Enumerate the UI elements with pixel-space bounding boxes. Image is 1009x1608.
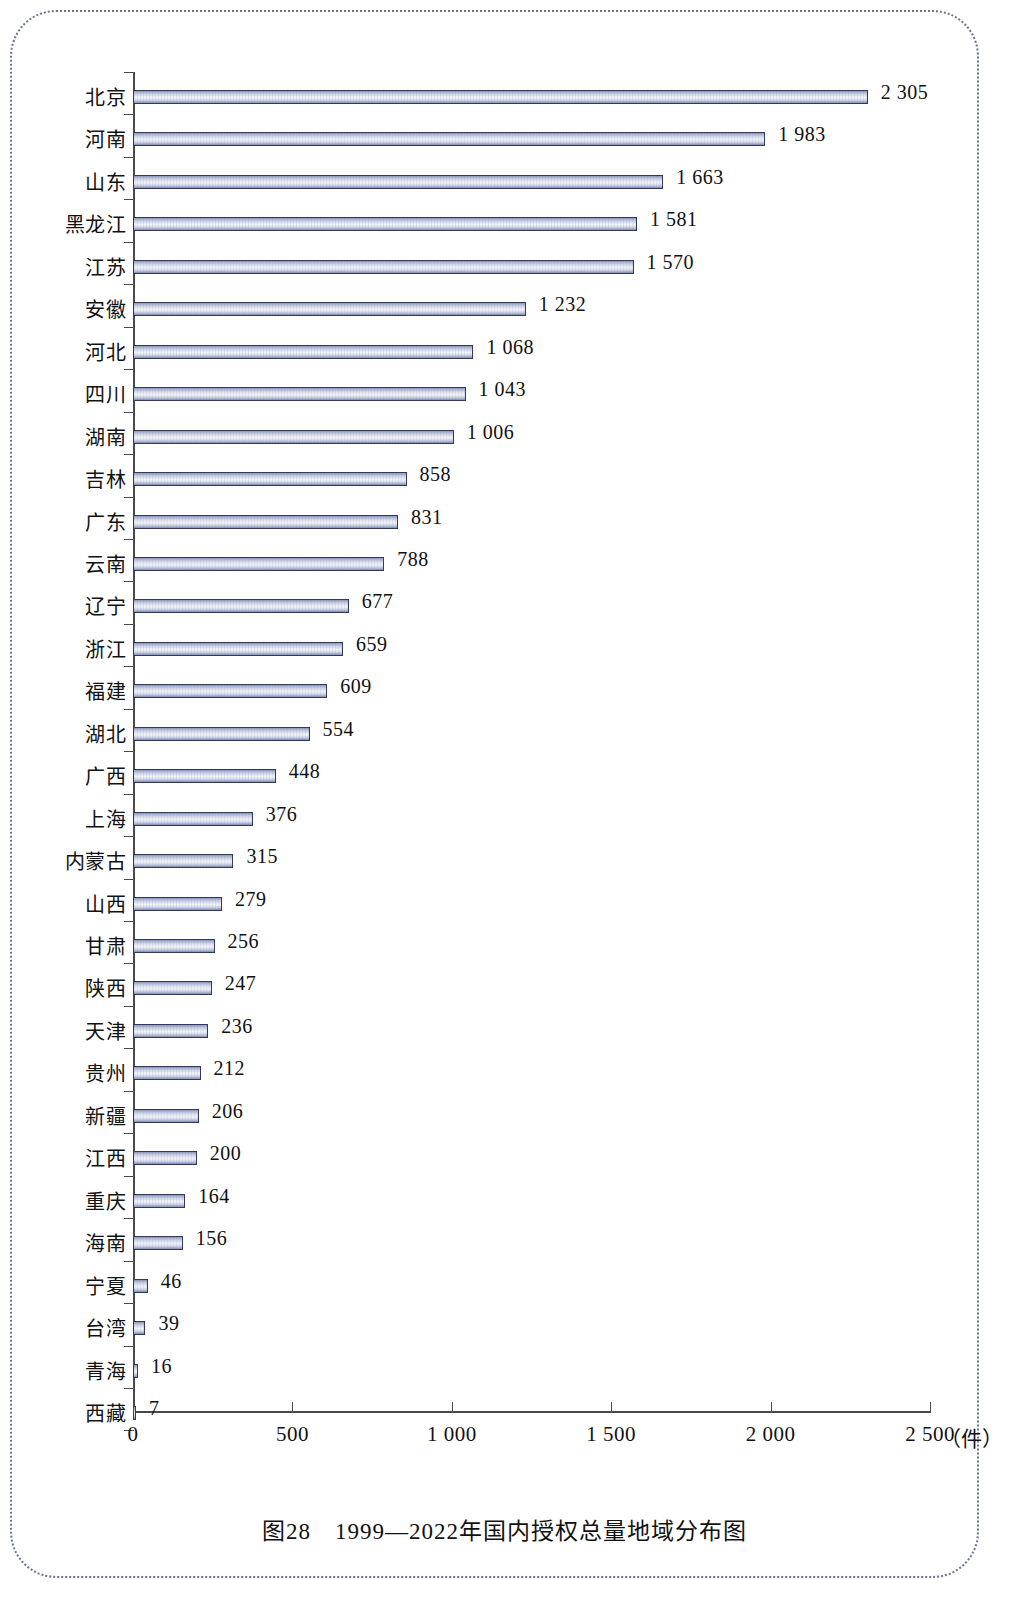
y-axis-tick <box>124 666 134 667</box>
bar <box>133 1151 197 1165</box>
bar-value-label: 659 <box>356 633 388 656</box>
bar <box>133 217 637 231</box>
bar <box>133 981 212 995</box>
bar <box>133 472 407 486</box>
category-label: 甘肃 <box>0 931 126 960</box>
y-axis-tick <box>124 157 134 158</box>
bar-value-label: 1 663 <box>676 166 724 189</box>
bar-row: 海南156 <box>0 1222 1009 1264</box>
y-axis-tick <box>124 1388 134 1389</box>
bar-value-label: 1 581 <box>650 208 698 231</box>
x-axis-tick <box>452 1402 453 1412</box>
bar-row: 山西279 <box>0 883 1009 925</box>
bar <box>133 1066 201 1080</box>
category-label: 广西 <box>0 761 126 790</box>
y-axis-tick <box>124 836 134 837</box>
x-axis-tick-label: 1 000 <box>427 1422 477 1447</box>
x-axis-tick-label: 0 <box>128 1422 139 1447</box>
category-label: 西藏 <box>0 1398 126 1427</box>
y-axis-tick <box>124 1218 134 1219</box>
category-label: 天津 <box>0 1016 126 1045</box>
category-label: 四川 <box>0 379 126 408</box>
y-axis-tick <box>124 114 134 115</box>
bar-row: 辽宁677 <box>0 585 1009 627</box>
bar-row: 内蒙古315 <box>0 840 1009 882</box>
bar-value-label: 315 <box>246 845 278 868</box>
y-axis-tick <box>124 751 134 752</box>
bar-row: 河北1 068 <box>0 331 1009 373</box>
bar-row: 青海16 <box>0 1350 1009 1392</box>
category-label: 重庆 <box>0 1186 126 1215</box>
x-axis-tick <box>292 1402 293 1412</box>
bar <box>133 515 398 529</box>
bar <box>133 1194 185 1208</box>
category-label: 辽宁 <box>0 591 126 620</box>
bar <box>133 854 233 868</box>
bar-row: 安徽1 232 <box>0 288 1009 330</box>
category-label: 山东 <box>0 167 126 196</box>
category-label: 广东 <box>0 507 126 536</box>
y-axis-tick <box>124 199 134 200</box>
y-axis-tick <box>124 412 134 413</box>
bar-row: 山东1 663 <box>0 161 1009 203</box>
bar-value-label: 16 <box>151 1355 172 1378</box>
category-label: 黑龙江 <box>0 209 126 238</box>
y-axis-tick <box>124 581 134 582</box>
bar-value-label: 2 305 <box>881 81 929 104</box>
x-axis-tick-label: 2 000 <box>746 1422 796 1447</box>
bar <box>133 90 868 104</box>
bar <box>133 1109 199 1123</box>
bar-value-label: 788 <box>397 548 429 571</box>
bar-row: 江苏1 570 <box>0 246 1009 288</box>
y-axis-tick <box>124 454 134 455</box>
category-label: 浙江 <box>0 634 126 663</box>
y-axis-tick <box>124 72 134 73</box>
category-label: 北京 <box>0 82 126 111</box>
bar-value-label: 1 043 <box>479 378 527 401</box>
bar <box>133 302 526 316</box>
bar-value-label: 200 <box>210 1142 242 1165</box>
bar <box>133 769 276 783</box>
category-label: 江苏 <box>0 252 126 281</box>
y-axis-tick <box>124 1346 134 1347</box>
y-axis-tick <box>124 369 134 370</box>
x-axis-tick-label: 500 <box>276 1422 309 1447</box>
bar-value-label: 858 <box>420 463 452 486</box>
y-axis-tick <box>124 921 134 922</box>
category-label: 上海 <box>0 804 126 833</box>
category-label: 福建 <box>0 676 126 705</box>
bar <box>133 1321 145 1335</box>
bar-row: 北京2 305 <box>0 76 1009 118</box>
y-axis-tick <box>124 1091 134 1092</box>
bar <box>133 1279 148 1293</box>
y-axis-tick <box>124 1006 134 1007</box>
bar-row: 台湾39 <box>0 1307 1009 1349</box>
bar-row: 湖南1 006 <box>0 416 1009 458</box>
x-axis-tick <box>930 1402 931 1412</box>
bar-value-label: 1 006 <box>467 421 515 444</box>
bar-row: 河南1 983 <box>0 118 1009 160</box>
category-label: 新疆 <box>0 1101 126 1130</box>
bar-row: 天津236 <box>0 1010 1009 1052</box>
y-axis-tick <box>124 284 134 285</box>
bar-row: 新疆206 <box>0 1095 1009 1137</box>
bar-value-label: 206 <box>212 1100 244 1123</box>
bar-row: 上海376 <box>0 798 1009 840</box>
y-axis-tick <box>124 242 134 243</box>
category-label: 贵州 <box>0 1058 126 1087</box>
y-axis-tick <box>124 963 134 964</box>
bar-row: 陕西247 <box>0 967 1009 1009</box>
bar <box>133 1364 138 1378</box>
bar <box>133 260 634 274</box>
bar-row: 黑龙江1 581 <box>0 203 1009 245</box>
bar <box>133 430 454 444</box>
bar-row: 浙江659 <box>0 628 1009 670</box>
bar-chart: 北京2 305河南1 983山东1 663黑龙江1 581江苏1 570安徽1 … <box>0 0 1009 1608</box>
bar-value-label: 1 570 <box>647 251 695 274</box>
bar-value-label: 554 <box>323 718 355 741</box>
category-label: 内蒙古 <box>0 846 126 875</box>
category-label: 安徽 <box>0 294 126 323</box>
category-label: 江西 <box>0 1143 126 1172</box>
category-label: 陕西 <box>0 973 126 1002</box>
bar-value-label: 1 983 <box>778 123 826 146</box>
